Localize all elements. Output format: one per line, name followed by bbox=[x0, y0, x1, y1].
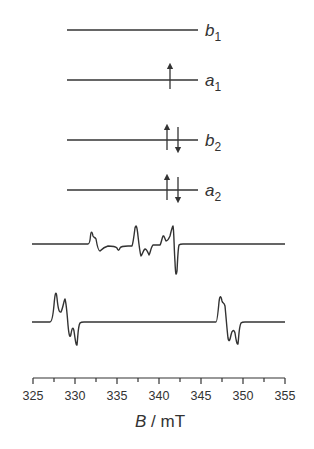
x-axis-title: B / mT bbox=[135, 412, 185, 431]
level-subscript: 1 bbox=[214, 30, 221, 44]
energy-level-b2: b2 bbox=[67, 127, 221, 154]
level-label: a bbox=[205, 71, 214, 90]
x-axis: 325 330 335 340 345 350 355 B / mT bbox=[23, 378, 296, 431]
epr-spectrum-upper bbox=[32, 226, 285, 274]
svg-text:b1: b1 bbox=[205, 21, 221, 44]
level-subscript: 1 bbox=[214, 80, 221, 94]
energy-level-a2: a2 bbox=[67, 177, 221, 204]
energy-level-b1: b1 bbox=[67, 21, 221, 44]
tick-label: 340 bbox=[149, 389, 170, 403]
tick-label: 335 bbox=[107, 389, 128, 403]
tick-label: 350 bbox=[233, 389, 254, 403]
epr-figure: b1 a1 b2 a2 325 bbox=[0, 0, 314, 449]
level-label: b bbox=[205, 131, 214, 150]
level-label: a bbox=[205, 181, 214, 200]
tick-label: 330 bbox=[65, 389, 86, 403]
tick-label: 345 bbox=[191, 389, 212, 403]
epr-spectrum-lower bbox=[32, 293, 285, 345]
level-subscript: 2 bbox=[214, 140, 221, 154]
svg-text:a1: a1 bbox=[205, 71, 221, 94]
level-label: b bbox=[205, 21, 214, 40]
tick-label: 355 bbox=[275, 389, 296, 403]
svg-text:a2: a2 bbox=[205, 181, 221, 204]
level-subscript: 2 bbox=[214, 190, 221, 204]
svg-text:b2: b2 bbox=[205, 131, 221, 154]
tick-label: 325 bbox=[23, 389, 44, 403]
energy-level-a1: a1 bbox=[67, 66, 221, 94]
